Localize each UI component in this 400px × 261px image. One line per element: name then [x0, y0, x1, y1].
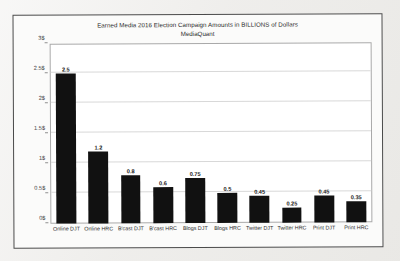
y-axis-tick-label: 1$ [39, 154, 45, 160]
y-axis-tick-label: 0.5$ [34, 184, 45, 190]
bar-value-label: 0.25 [286, 200, 297, 206]
bar [153, 187, 173, 223]
x-axis-category-label: B'cast DJT [118, 225, 144, 231]
x-axis-labels: Online DJTOnline HRCB'cast DJTB'cast HRC… [50, 224, 372, 239]
bar [88, 151, 108, 223]
x-axis-category-label: B'cast HRC [149, 225, 177, 231]
bar-value-label: 0.6 [159, 179, 167, 185]
bar [185, 177, 205, 222]
y-axis-tick-mark [45, 42, 48, 43]
y-axis-tick-label: 3$ [38, 34, 44, 40]
y-axis-tick-mark [45, 102, 48, 103]
bar [250, 195, 270, 222]
y-axis-tick-label: 2$ [39, 94, 45, 100]
bar [314, 195, 334, 222]
y-axis-tick-mark [45, 222, 48, 223]
bar-value-label: 0.45 [318, 187, 329, 193]
x-axis-category-label: Blogs DJT [183, 224, 208, 230]
y-axis-tick-label: 2.5$ [34, 64, 45, 70]
bar [217, 192, 237, 222]
y-axis: 0$0.5$1$1.5$2$2.5$3$ [14, 43, 49, 223]
bar-value-label: 1.2 [94, 143, 102, 149]
x-axis-category-label: Print HRC [344, 224, 368, 230]
x-axis-category-label: Online DJT [53, 225, 80, 231]
y-axis-tick-label: 1.5$ [34, 124, 45, 130]
bar-value-label: 0.35 [351, 193, 362, 199]
y-axis-tick-mark [45, 162, 48, 163]
bar [121, 175, 141, 223]
bar [346, 201, 366, 222]
x-axis-category-label: Print DJT [313, 224, 335, 230]
y-axis-tick-mark [45, 72, 48, 73]
x-axis-category-label: Online HRC [84, 225, 113, 231]
chart-subtitle: MediaQuant [14, 28, 382, 38]
bar-value-label: 0.8 [127, 167, 135, 173]
bar-value-label: 0.75 [190, 170, 201, 176]
x-axis-category-label: Twitter HRC [277, 224, 306, 230]
bar-series: 2.51.20.80.60.750.50.450.250.450.35 [50, 42, 373, 223]
y-axis-tick-mark [45, 192, 48, 193]
x-axis-category-label: Blogs HRC [214, 224, 241, 230]
y-axis-tick-label: 0$ [39, 214, 45, 220]
bar-value-label: 0.5 [223, 185, 231, 191]
x-axis-category-label: Twitter DJT [246, 224, 273, 230]
y-axis-tick-mark [45, 132, 48, 133]
chart-figure-frame: Earned Media 2016 Election Campaign Amou… [12, 13, 383, 249]
bar [282, 207, 302, 222]
bar-value-label: 2.5 [62, 66, 70, 72]
bar-value-label: 0.45 [254, 188, 265, 194]
bar [56, 73, 77, 223]
